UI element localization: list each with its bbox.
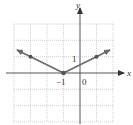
graph: y x 1 −1 0 [0,0,133,125]
origin-label: 0 [82,77,87,87]
graph-left-ray [17,50,64,73]
y-axis-label: y [75,0,80,10]
point-vertex [61,71,66,76]
graph-right-ray [64,50,111,73]
point-neg3-1 [29,55,33,59]
x-axis-label: x [126,68,131,78]
tick-label-1: 1 [72,54,77,64]
tick-label-neg1: −1 [56,77,66,87]
point-1-1 [95,55,99,59]
